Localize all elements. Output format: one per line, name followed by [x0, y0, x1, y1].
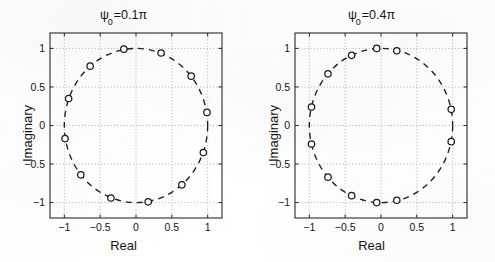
plot-panel-left: ψ0=0.1π −1−0.500.5110.50−0.5−1 Real Imag… — [0, 0, 247, 262]
root-marker — [325, 174, 331, 180]
root-marker — [108, 195, 114, 201]
xtick-label: 0 — [378, 221, 384, 233]
xtick-label: 1 — [450, 221, 456, 233]
plot-xtick-labels: −1−0.500.51 — [303, 221, 455, 233]
root-marker — [200, 149, 206, 155]
xtick-label: 0.5 — [410, 221, 425, 233]
plot-xtick-labels: −1−0.500.51 — [58, 221, 210, 233]
figure-two-unit-circle-plots: ψ0=0.1π −1−0.500.5110.50−0.5−1 Real Imag… — [0, 0, 495, 262]
xtick-label: −0.5 — [90, 221, 111, 233]
root-marker — [65, 95, 71, 101]
ytick-label: −1 — [33, 196, 45, 208]
ytick-label: 0.5 — [275, 81, 290, 93]
plot-right-xaxis-label: Real — [248, 238, 495, 253]
root-marker — [204, 109, 210, 115]
ytick-label: 0 — [284, 119, 290, 131]
root-marker — [448, 106, 454, 112]
root-marker — [374, 199, 380, 205]
plot-left-canvas: −1−0.500.5110.50−0.5−1 — [0, 0, 247, 262]
root-marker — [145, 199, 151, 205]
root-marker — [188, 73, 194, 79]
plot-gridlines — [50, 33, 222, 218]
root-marker — [308, 141, 314, 147]
xtick-label: 1 — [205, 221, 211, 233]
root-marker — [121, 46, 127, 52]
plot-left-yaxis-label: Imaginary — [20, 105, 35, 162]
root-marker — [87, 63, 93, 69]
xtick-label: −1 — [303, 221, 315, 233]
root-marker — [348, 52, 354, 58]
xtick-label: 0.5 — [165, 221, 180, 233]
root-marker — [62, 135, 68, 141]
root-marker — [348, 192, 354, 198]
root-marker — [158, 50, 164, 56]
root-marker — [394, 197, 400, 203]
plot-right-yaxis-label: Imaginary — [266, 105, 281, 162]
root-marker — [325, 71, 331, 77]
root-marker — [308, 104, 314, 110]
plot-left-xaxis-label: Real — [0, 238, 247, 253]
xtick-label: −0.5 — [335, 221, 356, 233]
ytick-label: 1 — [284, 42, 290, 54]
root-marker — [179, 182, 185, 188]
xtick-label: −1 — [58, 221, 70, 233]
ytick-label: −1 — [278, 196, 290, 208]
plot-right-canvas: −1−0.500.5110.50−0.5−1 — [248, 0, 495, 262]
ytick-label: 0 — [39, 119, 45, 131]
root-marker — [394, 48, 400, 54]
root-marker — [374, 45, 380, 51]
ytick-label: 1 — [39, 42, 45, 54]
root-marker — [78, 172, 84, 178]
root-marker — [448, 138, 454, 144]
ytick-label: 0.5 — [30, 81, 45, 93]
plot-panel-right: ψ0=0.4π −1−0.500.5110.50−0.5−1 Real Imag… — [248, 0, 495, 262]
plot-gridlines — [295, 33, 467, 218]
xtick-label: 0 — [133, 221, 139, 233]
